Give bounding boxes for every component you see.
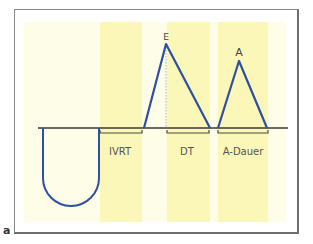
ivrt-band xyxy=(100,22,142,222)
a-duration-band xyxy=(218,22,268,222)
ivrt-label: IVRT xyxy=(109,146,132,157)
dt-label: DT xyxy=(180,146,195,157)
doppler-diagram: E A IVRT DT A-Dauer xyxy=(0,0,313,244)
panel-label: a xyxy=(3,224,10,237)
dt-band xyxy=(167,22,210,222)
e-peak-label: E xyxy=(163,32,169,42)
a-peak-label: A xyxy=(235,46,243,59)
a-duration-label: A-Dauer xyxy=(223,146,265,157)
